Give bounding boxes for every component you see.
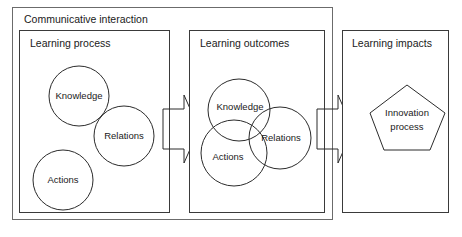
circle-label-actions-outcomes: Actions (212, 151, 243, 162)
circle-label-relations-outcomes: Relations (261, 132, 301, 143)
pentagon-label-innovation-line2: process (390, 121, 424, 132)
communicative-interaction-diagram: Communicative interaction Learning proce… (0, 0, 462, 237)
panel-title-learning-process: Learning process (30, 37, 111, 49)
panel-title-learning-outcomes: Learning outcomes (200, 37, 289, 49)
circle-label-actions-process: Actions (47, 174, 78, 185)
circle-label-knowledge-outcomes: Knowledge (216, 101, 263, 112)
pentagon-label-innovation-line1: Innovation (385, 107, 429, 118)
diagram-canvas: Communicative interaction Learning proce… (0, 0, 462, 237)
outer-frame-title: Communicative interaction (24, 13, 148, 25)
circle-label-knowledge-process: Knowledge (55, 90, 102, 101)
circle-label-relations-process: Relations (104, 130, 144, 141)
panel-title-learning-impacts: Learning impacts (352, 37, 432, 49)
